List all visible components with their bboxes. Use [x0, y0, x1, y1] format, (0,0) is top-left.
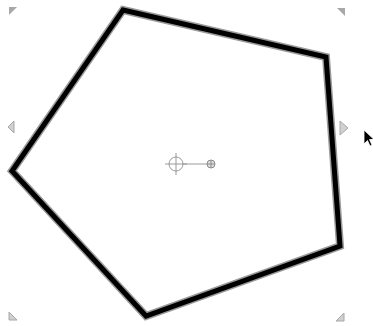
drawing-canvas[interactable] [0, 0, 373, 326]
canvas-background [0, 0, 373, 326]
